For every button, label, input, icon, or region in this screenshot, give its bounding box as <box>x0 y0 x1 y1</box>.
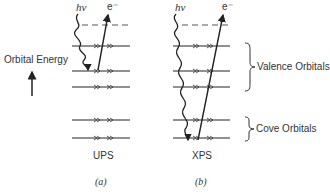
ups-electron-label: e⁻ <box>107 1 118 12</box>
xps-electron-pairs <box>193 44 213 140</box>
valence-brace <box>245 43 255 91</box>
ups-panel <box>72 14 130 140</box>
ups-electron-pairs <box>94 44 113 140</box>
xps-panel <box>173 14 230 140</box>
ups-orbital-levels <box>72 46 130 138</box>
core-brace <box>245 117 254 141</box>
ups-photon-label: hν <box>76 1 86 13</box>
ups-panel-caption: (a) <box>95 176 107 187</box>
ups-photon-wave <box>74 14 88 70</box>
ups-electron-arrow <box>98 15 108 70</box>
ups-panel-title: UPS <box>93 150 114 161</box>
xps-photon-label: hν <box>175 1 185 13</box>
core-orbitals-label: Cove Orbitals <box>256 123 317 134</box>
xps-panel-caption: (b) <box>195 176 207 187</box>
valence-orbitals-label: Valence Orbitals <box>257 61 330 72</box>
xps-panel-title: XPS <box>192 150 212 161</box>
xps-photon-wave <box>174 14 188 140</box>
xps-electron-label: e⁻ <box>222 1 233 12</box>
orbital-energy-label: Orbital Energy <box>4 54 68 65</box>
